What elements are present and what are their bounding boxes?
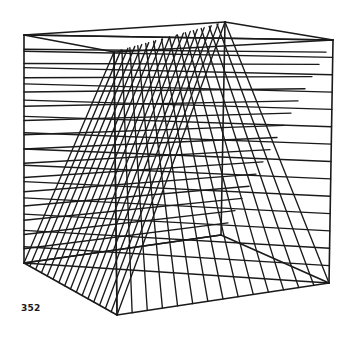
string-line [122, 50, 132, 313]
fan-front [24, 22, 225, 315]
fan-left-diag [24, 35, 333, 283]
string-line [24, 68, 332, 75]
cube-edge [225, 22, 333, 40]
string-surfaces [24, 22, 333, 315]
string-line [24, 162, 263, 178]
string-line [24, 64, 319, 65]
figure-number-label: 352 [21, 303, 40, 313]
string-line [24, 116, 332, 126]
cube-edge [24, 22, 225, 35]
string-line [193, 31, 268, 293]
string-art-cube-diagram [0, 0, 353, 340]
cube-edge [117, 283, 329, 315]
